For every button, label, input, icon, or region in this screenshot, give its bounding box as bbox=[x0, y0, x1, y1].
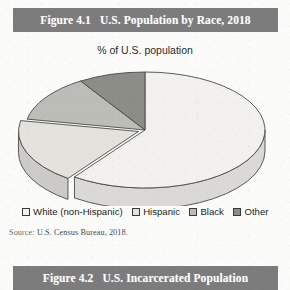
legend-swatch-other bbox=[233, 208, 241, 216]
chart-legend: White (non-Hispanic) Hispanic Black Othe… bbox=[0, 206, 290, 217]
legend-swatch-black bbox=[189, 208, 197, 216]
pie-slices-group bbox=[18, 72, 265, 206]
figure-4-1-label: Figure 4.1 bbox=[40, 14, 91, 26]
chart-source: Source: U.S. Census Bureau, 2018. bbox=[9, 228, 128, 237]
legend-swatch-hispanic bbox=[132, 208, 140, 216]
source-prefix: Source: bbox=[9, 228, 35, 237]
pie-chart-svg bbox=[0, 58, 290, 206]
legend-label-black: Black bbox=[200, 206, 223, 217]
legend-label-hispanic: Hispanic bbox=[143, 206, 180, 217]
legend-item-other[interactable]: Other bbox=[233, 206, 269, 217]
figure-4-1-title: U.S. Population by Race, 2018 bbox=[100, 14, 251, 26]
figure-4-2-header-bar: Figure 4.2 U.S. Incarcerated Population bbox=[13, 266, 278, 290]
legend-item-black[interactable]: Black bbox=[189, 206, 224, 217]
figure-4-2-title: U.S. Incarcerated Population bbox=[102, 272, 248, 284]
legend-item-hispanic[interactable]: Hispanic bbox=[132, 206, 180, 217]
legend-label-other: Other bbox=[244, 206, 268, 217]
source-text: U.S. Census Bureau, 2018. bbox=[37, 228, 128, 237]
legend-item-white[interactable]: White (non-Hispanic) bbox=[22, 206, 123, 217]
legend-swatch-white bbox=[22, 208, 30, 216]
figure-4-2-label: Figure 4.2 bbox=[43, 272, 94, 284]
pie-chart bbox=[0, 58, 290, 206]
legend-label-white: White (non-Hispanic) bbox=[33, 206, 123, 217]
chart-subtitle: % of U.S. population bbox=[0, 44, 290, 56]
figure-4-1-header-bar: Figure 4.1 U.S. Population by Race, 2018 bbox=[13, 8, 278, 32]
